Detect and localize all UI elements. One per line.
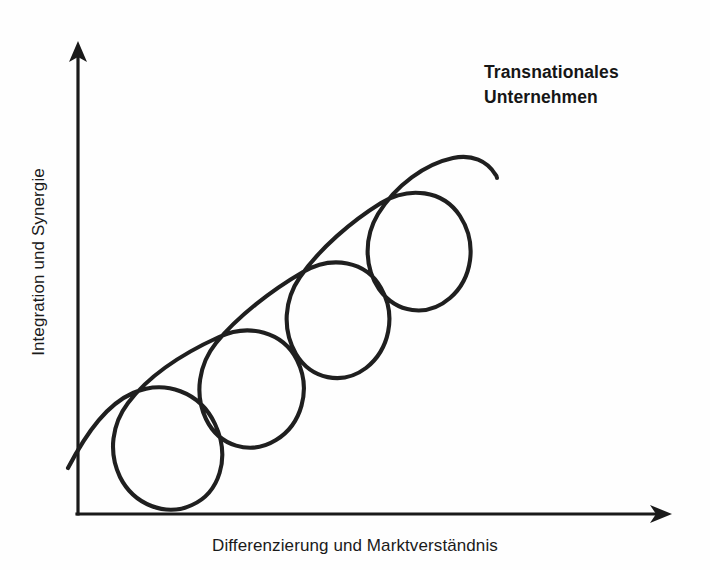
annotation-transnationales-unternehmen: Transnationales Unternehmen	[484, 60, 694, 111]
ascending-spiral-path	[68, 157, 497, 510]
axes-group	[69, 41, 672, 523]
spiral-curve-group	[68, 157, 497, 510]
spiral-diagram-figure: Transnationales Unternehmen Differenzier…	[0, 0, 710, 570]
y-axis-label-container: Integration und Synergie	[19, 102, 59, 422]
y-axis-label: Integration und Synergie	[29, 168, 49, 356]
x-axis-label: Differenzierung und Marktverständnis	[0, 536, 710, 556]
annotation-line-1: Transnationales	[484, 60, 694, 85]
annotation-line-2: Unternehmen	[484, 85, 694, 110]
